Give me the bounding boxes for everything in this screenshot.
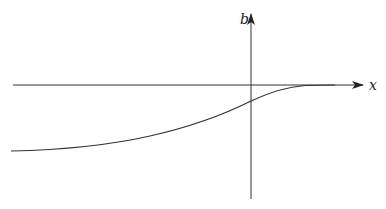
curve (11, 85, 335, 151)
y-axis-label: b (240, 11, 249, 27)
diagram-canvas: b x (0, 0, 386, 209)
x-axis-label: x (369, 77, 377, 93)
